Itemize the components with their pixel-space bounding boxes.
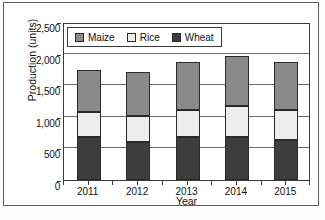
- x-axis-boundary-tick: [211, 181, 212, 185]
- bar-segment-rice-2014: [225, 106, 249, 137]
- legend-label: Rice: [140, 32, 160, 43]
- bar-segment-rice-2012: [126, 116, 150, 142]
- bar-segment-wheat-2013: [176, 137, 200, 180]
- x-axis-tick-mark: [285, 181, 286, 185]
- bar-group-2014: [225, 22, 249, 180]
- bar-segment-maize-2011: [77, 70, 101, 112]
- x-axis-boundary-tick: [162, 181, 163, 185]
- bar-segment-rice-2013: [176, 110, 200, 137]
- y-axis-tick-mark: [57, 55, 61, 56]
- bar-segment-maize-2015: [274, 62, 298, 110]
- bar-segment-wheat-2012: [126, 142, 150, 180]
- bar-segment-maize-2013: [176, 62, 200, 110]
- y-axis-tick-mark: [57, 86, 61, 87]
- legend-swatch-wheat-icon: [172, 33, 181, 42]
- x-axis-boundary-tick: [63, 181, 64, 185]
- bar-segment-rice-2011: [77, 112, 101, 137]
- bar-segment-maize-2012: [126, 72, 150, 116]
- bar-segment-maize-2014: [225, 56, 249, 106]
- y-axis-tick-mark: [57, 118, 61, 119]
- y-axis-title: Production (units): [26, 0, 38, 135]
- bar-segment-rice-2015: [274, 110, 298, 140]
- y-axis-tick-mark: [57, 23, 61, 24]
- legend-label: Wheat: [185, 32, 214, 43]
- bar-segment-wheat-2011: [77, 137, 101, 180]
- x-axis-tick-mark: [187, 181, 188, 185]
- legend-label: Maize: [88, 32, 115, 43]
- legend-item-wheat: Wheat: [172, 32, 214, 43]
- figure-frame: 05001,0001,5002,0002,500 Production (uni…: [3, 2, 319, 206]
- x-axis-tick-mark: [137, 181, 138, 185]
- legend-swatch-maize-icon: [75, 33, 84, 42]
- bar-segment-wheat-2014: [225, 137, 249, 180]
- x-axis-boundary-tick: [261, 181, 262, 185]
- x-axis-boundary-tick: [112, 181, 113, 185]
- x-axis-title: Year: [63, 195, 310, 207]
- bar-group-2015: [274, 22, 298, 180]
- y-axis-tick-mark: [57, 149, 61, 150]
- chart-legend: MaizeRiceWheat: [67, 27, 222, 47]
- x-axis-boundary-tick: [309, 181, 310, 185]
- bar-segment-wheat-2015: [274, 140, 298, 180]
- x-axis-tick-mark: [88, 181, 89, 185]
- x-axis-tick-mark: [236, 181, 237, 185]
- y-axis-tick-mark: [57, 181, 61, 182]
- legend-item-maize: Maize: [75, 32, 115, 43]
- legend-item-rice: Rice: [127, 32, 160, 43]
- legend-swatch-rice-icon: [127, 33, 136, 42]
